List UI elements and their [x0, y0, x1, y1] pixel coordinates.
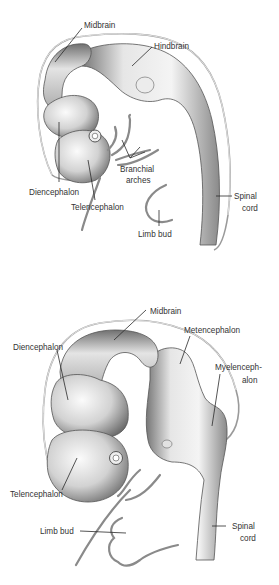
label-top-hindbrain: Hindbrain — [154, 42, 189, 51]
embryo-brain-diagram: Midbrain Hindbrain Diencephalon Telencep… — [0, 0, 279, 585]
bottom-limb-bud — [109, 518, 178, 566]
top-panel-embryo: Midbrain Hindbrain Diencephalon Telencep… — [29, 21, 258, 250]
label-bottom-limb-bud: Limb bud — [40, 527, 74, 536]
bottom-panel-embryo: Midbrain Diencephalon Metencephalon Myel… — [10, 307, 262, 566]
label-bottom-telencephalon: Telencephalon — [10, 490, 63, 499]
label-top-branchial-arches-2: arches — [126, 176, 151, 185]
label-bottom-myelencephalon-2: alon — [242, 376, 258, 385]
bottom-hindbrain-spinal-tube — [146, 348, 227, 560]
top-telencephalon — [55, 130, 110, 183]
label-top-branchial-arches-1: Branchial — [120, 165, 154, 174]
label-top-midbrain: Midbrain — [84, 21, 116, 30]
label-bottom-myelencephalon-1: Myelenceph- — [215, 363, 262, 372]
label-top-spinal-cord-2: cord — [242, 204, 258, 213]
label-top-limb-bud: Limb bud — [138, 230, 172, 239]
label-bottom-metencephalon: Metencephalon — [184, 326, 240, 335]
label-bottom-midbrain: Midbrain — [150, 307, 182, 316]
label-bottom-diencephalon: Diencephalon — [13, 343, 64, 352]
label-top-telencephalon: Telencephalon — [71, 203, 124, 212]
label-top-spinal-cord-1: Spinal — [234, 192, 257, 201]
bottom-diencephalon — [51, 375, 128, 439]
bottom-otic-pit — [162, 440, 172, 448]
label-top-diencephalon: Diencephalon — [29, 188, 80, 197]
label-bottom-spinal-cord-2: cord — [240, 534, 256, 543]
label-bottom-spinal-cord-1: Spinal — [232, 522, 255, 531]
top-otic-vesicle — [136, 77, 154, 93]
